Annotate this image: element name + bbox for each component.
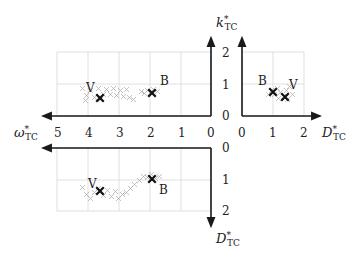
sample-crosses xyxy=(80,84,295,201)
svg-text:3: 3 xyxy=(116,126,124,140)
svg-text:2: 2 xyxy=(222,204,230,218)
k-ticks: 2 1 0 xyxy=(222,46,230,123)
grid-top-left xyxy=(57,52,211,116)
axis-title-k: k*TC xyxy=(216,14,237,32)
axis-title-omega: ω*TC xyxy=(14,124,38,142)
svg-text:0: 0 xyxy=(222,109,230,123)
label-B-top-right: B xyxy=(258,74,267,88)
label-V-bottom-left: V xyxy=(87,177,97,191)
label-B-bottom-left: B xyxy=(159,183,168,197)
svg-text:2: 2 xyxy=(147,126,155,140)
svg-text:1: 1 xyxy=(178,126,186,140)
svg-text:2: 2 xyxy=(222,46,230,60)
svg-text:2: 2 xyxy=(300,126,308,140)
D-down-ticks: 0 1 2 xyxy=(222,141,230,218)
D-right-ticks: 0 1 2 xyxy=(238,126,308,140)
svg-text:5: 5 xyxy=(54,126,62,140)
grid-bottom-left xyxy=(57,148,211,211)
svg-text:1: 1 xyxy=(222,78,230,92)
omega-ticks: 5 4 3 2 1 0 xyxy=(54,126,215,140)
axis-title-D-right: D*TC xyxy=(321,124,346,142)
svg-text:4: 4 xyxy=(85,126,93,140)
axis-title-D-down: D*TC xyxy=(215,230,240,248)
label-V-top-right: V xyxy=(288,78,298,92)
svg-text:0: 0 xyxy=(207,126,215,140)
svg-text:0: 0 xyxy=(222,141,230,155)
diagram-canvas: V B B V V B 5 4 3 2 1 0 0 1 2 2 1 0 0 1 … xyxy=(0,0,361,264)
svg-text:1: 1 xyxy=(269,126,277,140)
mean-V-bottom-left xyxy=(97,188,103,194)
label-B-top-left: B xyxy=(160,74,169,88)
svg-text:0: 0 xyxy=(238,126,246,140)
label-V-top-left: V xyxy=(85,81,95,95)
mean-crosses xyxy=(97,89,288,194)
svg-text:1: 1 xyxy=(222,173,230,187)
